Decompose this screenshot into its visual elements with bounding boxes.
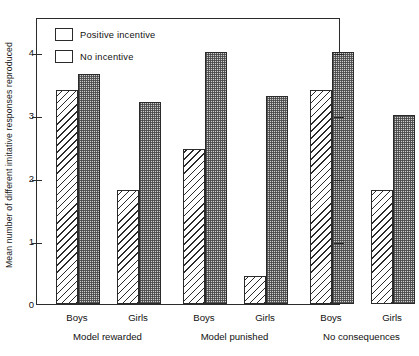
x-axis-group-label-0: Model rewarded [48, 331, 168, 342]
x-axis-sex-label-3: Girls [235, 312, 295, 323]
y-tick-label-1: 1 [20, 237, 34, 247]
bar-no-consequences-boys-positive-incentive [332, 52, 354, 304]
y-tick-left-2 [32, 180, 42, 181]
x-axis-sex-label-0: Boys [47, 312, 107, 323]
legend-item-no-incentive: No incentive [55, 50, 155, 63]
y-tick-left-3 [32, 117, 42, 118]
y-tick-left-4 [32, 54, 42, 55]
bar-model-rewarded-boys-no-incentive [56, 90, 78, 304]
bar-no-consequences-girls-no-incentive [371, 190, 393, 304]
x-axis-group-label-2: No consequences [302, 331, 419, 342]
y-tick-right-3 [334, 117, 344, 118]
legend-label-positive-incentive: Positive incentive [80, 30, 155, 40]
plot-frame: Positive incentive No incentive [36, 18, 340, 305]
bar-model-punished-boys-positive-incentive [205, 52, 227, 304]
y-tick-label-4: 4 [20, 48, 34, 58]
x-axis-sex-label-5: Girls [362, 312, 419, 323]
x-axis-labels: BoysGirlsBoysGirlsBoysGirlsModel rewarde… [36, 305, 340, 356]
legend-item-positive-incentive: Positive incentive [55, 28, 155, 41]
legend-swatch-hatch-icon [55, 50, 73, 63]
y-tick-right-1 [334, 243, 344, 244]
x-axis-sex-label-1: Girls [108, 312, 168, 323]
bar-model-rewarded-girls-no-incentive [117, 190, 139, 304]
bar-model-punished-girls-no-incentive [244, 276, 266, 304]
y-tick-label-3: 3 [20, 111, 34, 121]
bar-model-punished-boys-no-incentive [183, 149, 205, 304]
y-tick-left-1 [32, 243, 42, 244]
x-axis-group-label-1: Model punished [175, 331, 295, 342]
bar-no-consequences-girls-positive-incentive [393, 115, 415, 304]
x-axis-sex-label-2: Boys [174, 312, 234, 323]
y-axis-title-text: Mean number of different imitative respo… [4, 42, 14, 268]
y-tick-label-0: 0 [20, 300, 34, 310]
y-tick-right-4 [334, 54, 344, 55]
y-tick-right-2 [334, 180, 344, 181]
bar-model-punished-girls-positive-incentive [266, 96, 288, 304]
bar-model-rewarded-girls-positive-incentive [139, 102, 161, 304]
legend-label-no-incentive: No incentive [80, 52, 134, 62]
chart-legend: Positive incentive No incentive [55, 28, 155, 63]
y-tick-label-2: 2 [20, 174, 34, 184]
x-axis-sex-label-4: Boys [301, 312, 361, 323]
bar-no-consequences-boys-no-incentive [310, 90, 332, 304]
bar-model-rewarded-boys-positive-incentive [78, 74, 100, 304]
legend-swatch-dots-icon [55, 28, 73, 41]
